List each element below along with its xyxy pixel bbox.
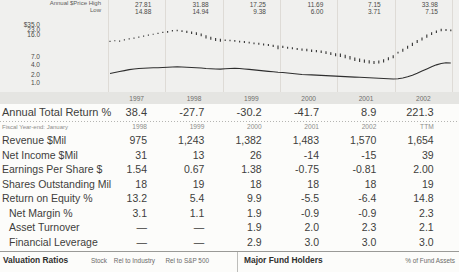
row-label: Net Income $Mil — [2, 149, 78, 161]
row-label: Shares Outstanding Mil — [2, 178, 111, 190]
table-row: Return on Equity %13.25.49.9-5.5-6.414.8 — [0, 192, 459, 204]
year-axis-band: 199719981999200020012002 — [0, 92, 459, 104]
row-value: -30.2 — [212, 106, 262, 118]
row-value: -27.7 — [154, 106, 204, 118]
row-value: 2.9 — [212, 236, 262, 248]
row-value: 38.4 — [97, 106, 147, 118]
row-value: 1.54 — [97, 163, 147, 175]
section-rule — [0, 251, 459, 252]
row-value: 1.9 — [212, 221, 262, 233]
row-value: 2002 — [326, 123, 376, 131]
row-value: 18 — [97, 178, 147, 190]
row-value: -0.81 — [326, 163, 376, 175]
row-value: 14.8 — [384, 192, 434, 204]
table-row: Shares Outstanding Mil181918181819 — [0, 178, 459, 190]
row-value: 2.0 — [269, 221, 319, 233]
row-value: 1,483 — [269, 134, 319, 146]
table-row: Asset Turnover——1.92.02.32.1 — [0, 221, 459, 233]
section-divider — [237, 252, 238, 272]
row-value: -5.5 — [269, 192, 319, 204]
row-value: 1.9 — [212, 207, 262, 219]
valuation-ratios-title: Valuation Ratios — [3, 255, 68, 265]
valuation-col-rel-sp500: Rel to S&P 500 — [157, 257, 209, 265]
row-value: — — [97, 221, 147, 233]
row-value: 1.1 — [154, 207, 204, 219]
row-value: 2.3 — [326, 221, 376, 233]
row-value: 3.0 — [269, 236, 319, 248]
row-value: 18 — [212, 178, 262, 190]
row-value: 1999 — [154, 123, 204, 131]
year-label-2002: 2002 — [395, 95, 452, 103]
row-value: 2001 — [269, 123, 319, 131]
row-value: 31 — [97, 149, 147, 161]
row-value: 1,243 — [154, 134, 204, 146]
row-value: 19 — [384, 178, 434, 190]
row-label: Return on Equity % — [2, 192, 92, 204]
row-value: 1,570 — [326, 134, 376, 146]
table-row: Earnings Per Share $1.540.671.38-0.75-0.… — [0, 163, 459, 175]
stock-report-page: Annual $Price High Low 27.8114.8831.8814… — [0, 0, 459, 272]
table-row: Net Income $Mil311326-14-1539 — [0, 149, 459, 161]
row-value: 975 — [97, 134, 147, 146]
row-value: -41.7 — [269, 106, 319, 118]
row-value: 13.2 — [97, 192, 147, 204]
row-value: 39 — [384, 149, 434, 161]
row-value: 18 — [269, 178, 319, 190]
table-row: Net Margin %3.11.11.9-0.9-0.92.3 — [0, 207, 459, 219]
valuation-col-rel-industry: Rel to Industry — [108, 257, 155, 265]
row-value: -0.75 — [269, 163, 319, 175]
year-label-2000: 2000 — [280, 95, 337, 103]
row-value: 2.1 — [384, 221, 434, 233]
row-value: 3.0 — [326, 236, 376, 248]
price-bar-chart — [0, 0, 459, 92]
row-value: 221.3 — [384, 106, 434, 118]
row-value: 3.0 — [384, 236, 434, 248]
row-value: 5.4 — [154, 192, 204, 204]
row-value: -14 — [269, 149, 319, 161]
row-value: 19 — [154, 178, 204, 190]
row-value: TTM — [384, 123, 434, 131]
row-label: Annual Total Return % — [2, 106, 111, 118]
row-value: 2.3 — [384, 207, 434, 219]
row-value: 2.00 — [384, 163, 434, 175]
year-label-1999: 1999 — [223, 95, 280, 103]
row-value: — — [154, 236, 204, 248]
table-row: Fiscal Year-end: January1998199920002001… — [0, 123, 459, 131]
row-label: Revenue $Mil — [2, 134, 66, 146]
row-value: 1,654 — [384, 134, 434, 146]
fund-assets-col-header: % of Fund Assets — [370, 257, 455, 265]
row-value: 0.67 — [154, 163, 204, 175]
row-value: -6.4 — [326, 192, 376, 204]
row-value: -15 — [326, 149, 376, 161]
price-chart-panel: Annual $Price High Low 27.8114.8831.8814… — [0, 0, 459, 104]
row-value: 1998 — [97, 123, 147, 131]
row-value: — — [97, 236, 147, 248]
valuation-col-stock: Stock — [60, 257, 107, 265]
table-row: Financial Leverage——2.93.03.03.0 — [0, 236, 459, 248]
row-value: -0.9 — [269, 207, 319, 219]
row-value: 1,382 — [212, 134, 262, 146]
row-value: 3.1 — [97, 207, 147, 219]
row-value: 9.9 — [212, 192, 262, 204]
row-value: 2000 — [212, 123, 262, 131]
relative-strength-line — [110, 63, 451, 79]
row-value: 1.38 — [212, 163, 262, 175]
year-label-1998: 1998 — [165, 95, 222, 103]
row-label: Fiscal Year-end: January — [2, 123, 68, 131]
row-value: 8.9 — [326, 106, 376, 118]
row-value: — — [154, 221, 204, 233]
year-label-1997: 1997 — [108, 95, 165, 103]
table-row: Revenue $Mil9751,2431,3821,4831,5701,654 — [0, 134, 459, 146]
row-value: -0.9 — [326, 207, 376, 219]
major-fund-holders-title: Major Fund Holders — [244, 255, 323, 265]
table-row: Annual Total Return %38.4-27.7-30.2-41.7… — [0, 106, 459, 118]
row-label: Net Margin % — [9, 207, 73, 219]
row-separator-dotted — [0, 121, 459, 122]
row-label: Earnings Per Share $ — [2, 163, 102, 175]
row-label: Asset Turnover — [9, 221, 80, 233]
row-value: 26 — [212, 149, 262, 161]
row-label: Financial Leverage — [9, 236, 98, 248]
row-value: 18 — [326, 178, 376, 190]
row-value: 13 — [154, 149, 204, 161]
price-bars — [110, 29, 451, 64]
